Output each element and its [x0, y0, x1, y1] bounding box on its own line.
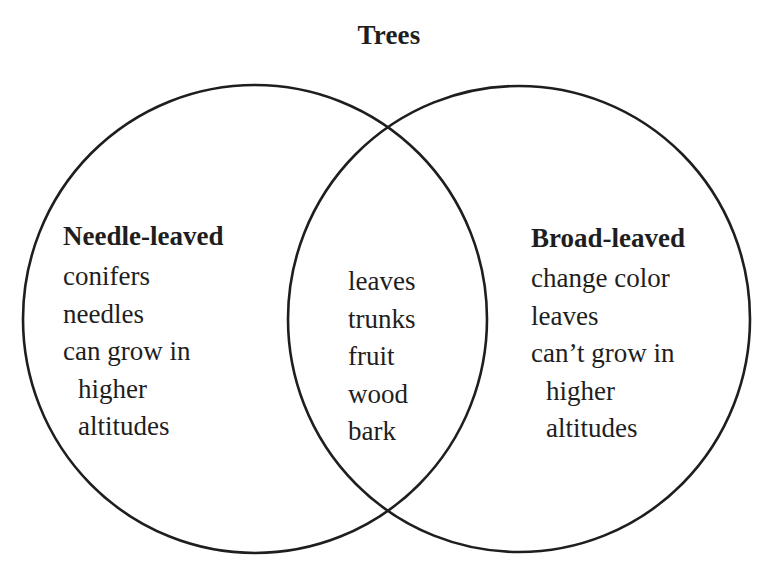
set-item: higher — [63, 371, 223, 409]
intersection-item: trunks — [348, 301, 416, 339]
set-item: can grow in — [63, 333, 223, 371]
set-item: needles — [63, 296, 223, 334]
set-heading-broad-leaved: Broad-leaved — [531, 220, 685, 257]
set-item: change color — [531, 260, 685, 298]
set-item: altitudes — [531, 410, 685, 448]
intersection-set: leaves trunks fruit wood bark — [348, 263, 416, 451]
set-item: conifers — [63, 258, 223, 296]
set-item: can’t grow in — [531, 335, 685, 373]
intersection-item: leaves — [348, 263, 416, 301]
intersection-item: fruit — [348, 338, 416, 376]
set-heading-needle-leaved: Needle-leaved — [63, 218, 223, 255]
set-item: leaves — [531, 298, 685, 336]
set-item: higher — [531, 373, 685, 411]
intersection-item: bark — [348, 413, 416, 451]
broad-leaved-set: Broad-leaved change color leaves can’t g… — [531, 220, 685, 448]
intersection-item: wood — [348, 376, 416, 414]
set-item: altitudes — [63, 408, 223, 446]
needle-leaved-set: Needle-leaved conifers needles can grow … — [63, 218, 223, 446]
